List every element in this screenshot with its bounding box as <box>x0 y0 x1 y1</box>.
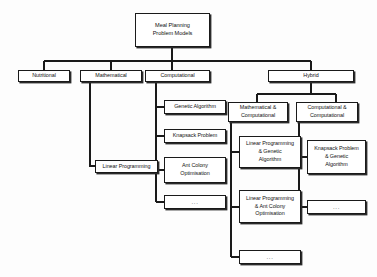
node-mathematical-computational[interactable]: Mathematical & Computational <box>228 102 288 122</box>
node-hybrid-label: Hybrid <box>271 72 352 80</box>
node-lp-ant-colony-label: Linear Programming & Ant Colony Optimisa… <box>242 195 299 218</box>
node-computational[interactable]: Computational <box>145 70 210 82</box>
node-hybrid[interactable]: Hybrid <box>268 70 354 82</box>
node-knapsack-genetic-label: Knapsack Problem & Genetic Algorithm <box>310 145 364 168</box>
node-mathematical[interactable]: Mathematical <box>80 70 142 82</box>
node-knapsack-genetic[interactable]: Knapsack Problem & Genetic Algorithm <box>307 140 366 174</box>
node-nutritional-label: Nutritional <box>21 72 68 80</box>
node-computational-more[interactable]: ... <box>164 195 226 209</box>
node-root-label: Meal Planning Problem Models <box>138 22 208 38</box>
node-math-comp-more[interactable]: ... <box>239 250 301 264</box>
node-computational-computational-label: Computational & Computational <box>299 104 356 119</box>
node-lp-genetic-label: Linear Programming & Genetic Algorithm <box>242 140 299 163</box>
node-knapsack-problem-label: Knapsack Problem <box>167 132 224 140</box>
node-comp-comp-more[interactable]: ... <box>307 200 366 214</box>
node-lp-genetic[interactable]: Linear Programming & Genetic Algorithm <box>239 136 301 168</box>
wire-mathematical-to-lp <box>90 82 95 166</box>
node-comp-comp-more-label: ... <box>310 203 364 212</box>
node-computational-more-label: ... <box>167 198 224 207</box>
node-nutritional[interactable]: Nutritional <box>18 70 70 82</box>
node-computational-label: Computational <box>148 72 208 80</box>
node-linear-programming-label: Linear Programming <box>98 163 156 171</box>
node-linear-programming[interactable]: Linear Programming <box>95 160 158 173</box>
diagram-canvas: Meal Planning Problem Models Nutritional… <box>0 0 377 277</box>
node-lp-ant-colony[interactable]: Linear Programming & Ant Colony Optimisa… <box>239 190 301 223</box>
node-genetic-algorithm-label: Genetic Algorithm <box>167 103 224 111</box>
node-mathematical-label: Mathematical <box>83 72 140 80</box>
node-knapsack-problem[interactable]: Knapsack Problem <box>164 129 226 143</box>
node-ant-colony-optimisation[interactable]: Ant Colony Optimisation <box>164 157 226 183</box>
node-mathematical-computational-label: Mathematical & Computational <box>231 104 286 119</box>
node-root[interactable]: Meal Planning Problem Models <box>135 13 210 47</box>
node-math-comp-more-label: ... <box>242 253 299 262</box>
node-genetic-algorithm[interactable]: Genetic Algorithm <box>164 100 226 114</box>
node-computational-computational[interactable]: Computational & Computational <box>296 102 358 122</box>
node-ant-colony-optimisation-label: Ant Colony Optimisation <box>167 162 224 177</box>
